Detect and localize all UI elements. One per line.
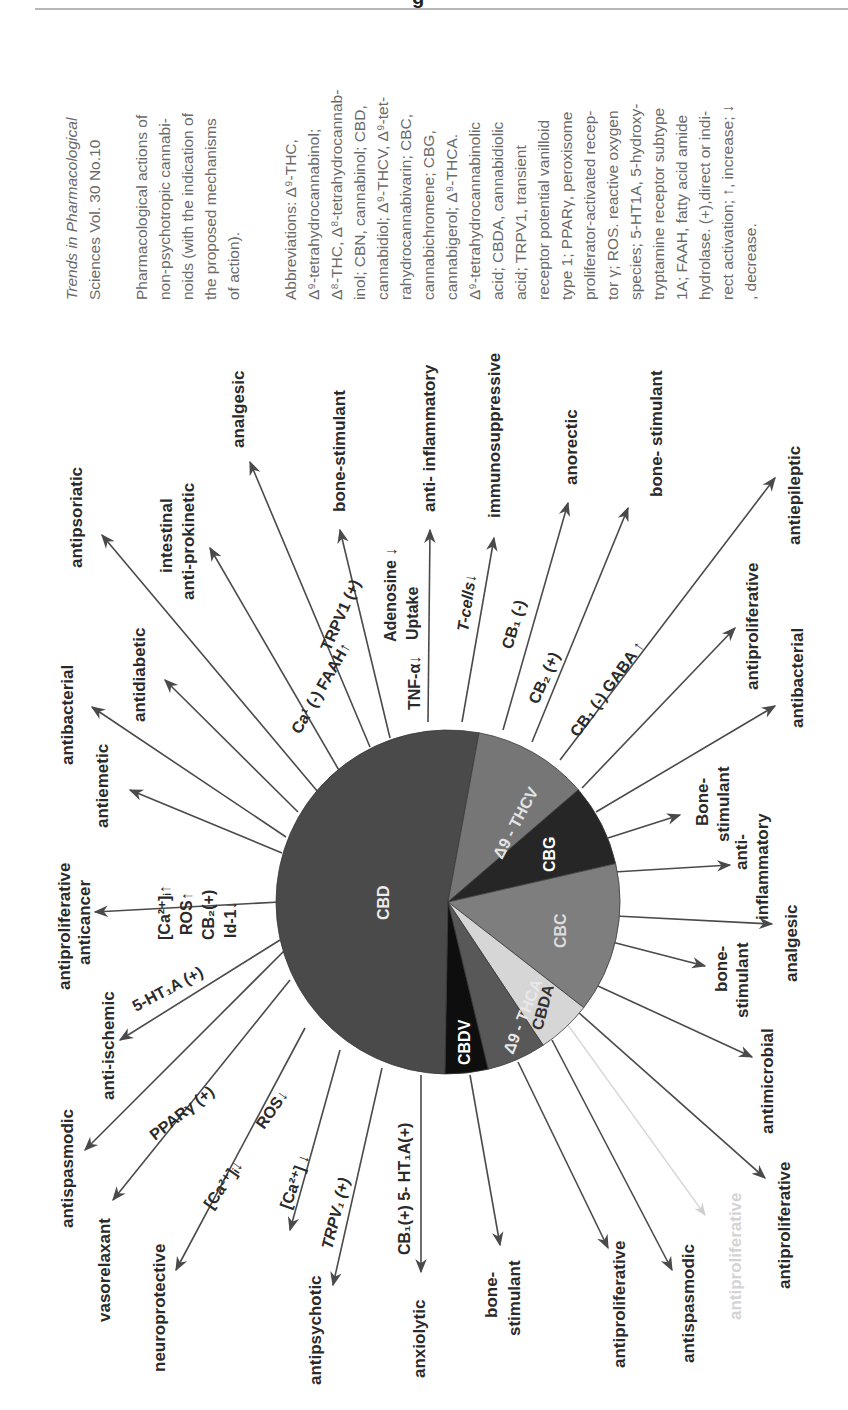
caption-abbr-line: acid; TRPV1, transient xyxy=(512,145,529,300)
caption-abbr-line: acid; CBDA, cannabidiolic xyxy=(489,121,506,300)
arrow-bone-stimulant-cbdv xyxy=(470,1075,500,1245)
label-anti-ischemic: anti-ischemic xyxy=(99,991,118,1100)
mech-cb1-gaba: CB₁ (-) GABA ↑ xyxy=(567,638,648,740)
cannabinoid-diagram: Trends in Pharmacological Sciences Vol. … xyxy=(0,0,848,1410)
mech-ca-down: [Ca²⁺] ↓ xyxy=(277,1152,312,1211)
arrow-neuroprotective xyxy=(176,1028,305,1270)
label-bone-stimulant-thcv: bone- stimulant xyxy=(647,370,666,497)
caption-abbr-line: rect activation; ↑, increase; ↓ xyxy=(719,104,736,300)
arrow-bone-stimulant-thcv xyxy=(532,508,628,742)
label-bone-cbc: bone- xyxy=(712,946,731,992)
label-antiproliferative-cbg: antiproliferative xyxy=(743,562,762,690)
label-analgesic: analgesic xyxy=(229,371,248,449)
caption-abbr-line: cannabichromene; CBG, xyxy=(420,130,437,300)
label-neuroprotective: neuroprotective xyxy=(150,1244,169,1372)
mech-uptake: Uptake xyxy=(404,587,421,640)
label-stimulant-cbc: stimulant xyxy=(733,942,752,1018)
caption-desc-line: Pharmacological actions of xyxy=(133,114,150,300)
caption-abbr-line: hydrolase. (+),direct or indi- xyxy=(696,111,713,300)
caption-abbr-line: species; 5-HT1A, 5-hydroxy- xyxy=(627,104,644,300)
arrow-antibacterial-cbg xyxy=(596,706,775,812)
arrow-antimicrobial xyxy=(598,986,752,1057)
label-antimicrobial: antimicrobial xyxy=(758,1028,777,1134)
mech-ros-up: ROS↑ xyxy=(178,892,195,935)
arrow-antidiabetic xyxy=(165,680,298,812)
label-antispasmodic-thca: antispasmodic xyxy=(679,1244,698,1363)
caption-journal: Trends in Pharmacological xyxy=(63,117,80,300)
mech-ca-faah: Ca¹ (-) FAAH↑ xyxy=(288,639,354,736)
caption-abbr-line: Δ⁹-tetrahydrocannabinol; xyxy=(305,129,322,300)
arrow-antipsychotic xyxy=(333,1068,382,1285)
mech-ppar: PPARγ (+) xyxy=(146,1083,217,1144)
pie-chart xyxy=(276,730,620,1074)
arrow-antiproliferative-faded xyxy=(568,1025,705,1215)
mech-tnf: TNF-α↓ xyxy=(406,656,423,710)
caption-abbr-line: type 1; PPARγ, peroxisome xyxy=(558,112,575,300)
slice-label-cbc: CBC xyxy=(552,913,569,948)
arrow-antiproliferative-thca xyxy=(518,1062,608,1248)
mech-trpv1-bottom: TRPV₁ (+) xyxy=(318,1176,352,1251)
mech-cb2-plus: CB₂(+) xyxy=(200,890,217,940)
arrow-anti-ischemic xyxy=(120,940,280,1040)
label-bone-stimulant: bone-stimulant xyxy=(330,390,349,512)
caption-abbr-line: cannabidiol; Δ⁹-THCV, Δ⁹-tet- xyxy=(374,97,391,300)
caption-abbr-line: tryptamine receptor subtype xyxy=(650,108,667,300)
caption-abbr-line: receptor potential vanilloid xyxy=(535,120,552,300)
arrow-antiproliferative-cbg xyxy=(582,628,735,788)
caption-abbr-line: 1A; FAAH, fatty acid amide xyxy=(673,115,690,300)
label-antiemetic: antiemetic xyxy=(93,744,112,828)
arrow-bone-stimulant-cbg xyxy=(608,815,680,838)
caption-abbr-line: , decrease. xyxy=(742,223,759,300)
mech-cb2-plus-thcv: CB₂ (+) xyxy=(525,649,563,706)
label-anorectic: anorectic xyxy=(562,409,581,485)
slice-label-cbdv: CBDV xyxy=(456,1019,473,1065)
label-antibacterial: antibacterial xyxy=(58,665,77,765)
caption-abbr-line: Δ⁸-THC, Δ⁸-tetrahydrocannab- xyxy=(328,90,345,300)
label-analgesic-cbc: analgesic xyxy=(782,905,801,983)
label-anxiolytic: anxiolytic xyxy=(410,1300,429,1378)
caption-abbr-line: Abbreviations: Δ⁹-THC, xyxy=(282,139,299,300)
label-bone-cbg: Bone- xyxy=(693,778,712,826)
arrow-antiemetic xyxy=(130,790,282,853)
caption-desc-line: noids (with the indication of xyxy=(179,112,196,300)
label-anti-inflammatory: anti- inflammatory xyxy=(420,364,439,512)
caption-desc-line: non-psychotropic cannabi- xyxy=(156,118,173,300)
caption-abbr-line: inol; CBN, cannabinol; CBD, xyxy=(351,105,368,300)
label-anti-prokinetic: anti-prokinetic xyxy=(179,483,198,600)
label-vasorelaxant: vasorelaxant xyxy=(95,1218,114,1322)
slice-label-cbg: CBG xyxy=(541,836,558,872)
label-anticancer: anticancer xyxy=(75,880,94,965)
label-anti-cbc: anti- xyxy=(732,834,751,870)
label-antipsoriatic: antipsoriatic xyxy=(67,467,86,568)
figure-page: g Trends in Pharmacological Sciences Vol… xyxy=(0,0,848,1410)
mech-adenosine: Adenosine ↓ xyxy=(382,548,399,642)
label-antipsychotic: antipsychotic xyxy=(306,1275,325,1385)
arrow-anti-inflammatory-cbc xyxy=(614,865,730,872)
slice-label-cbd: CBD xyxy=(375,885,392,920)
caption-abbr-line: cannabigerol; Δ⁹-THCA. xyxy=(443,134,460,300)
caption-abbr-line: tor γ; ROS. reactive oxygen xyxy=(604,110,621,300)
mech-id1-down: Id-1↓ xyxy=(222,902,239,938)
arrow-antiproliferative-cbda xyxy=(578,1012,765,1178)
arrow-antispasmodic-thca xyxy=(552,1040,672,1270)
caption-abbr-line: rahydrocannabivarin; CBC, xyxy=(397,114,414,300)
label-bone-cbdv: bone- xyxy=(482,1272,501,1318)
arrow-analgesic-cbc xyxy=(616,916,772,924)
mech-ca-i-down: [Ca²⁺]ᵢ↓ xyxy=(201,1157,246,1212)
label-antibacterial-cbg: antibacterial xyxy=(788,628,807,728)
mech-cb1-5ht1a: CB₁(+) 5- HT₁A(+) xyxy=(396,1123,413,1255)
arrow-anti-inflammatory xyxy=(428,530,430,722)
mech-tcells: T-cells↓ xyxy=(454,573,479,633)
label-inflammatory-cbc: inflammatory xyxy=(753,813,772,920)
caption-journal-issue: Sciences Vol. 30 No.10 xyxy=(86,139,103,300)
label-stimulant-cbg: stimulant xyxy=(714,766,733,842)
caption-desc-line: of action). xyxy=(225,232,242,300)
label-antiproliferative-thca: antiproliferative xyxy=(610,1240,629,1368)
label-antiproliferative-cbda: antiproliferative xyxy=(775,1161,794,1289)
caption-abbr-line: proliferator-activated recep- xyxy=(581,110,598,300)
label-antiproliferative: antiproliferative xyxy=(55,862,74,990)
mech-ca-up: [Ca²⁺]ᵢ↑ xyxy=(156,885,173,940)
mech-cb1-minus: CB₁ (-) xyxy=(499,598,529,651)
label-immunosuppressive: immunosuppressive xyxy=(485,353,504,518)
label-stimulant-cbdv: stimulant xyxy=(505,1260,524,1336)
